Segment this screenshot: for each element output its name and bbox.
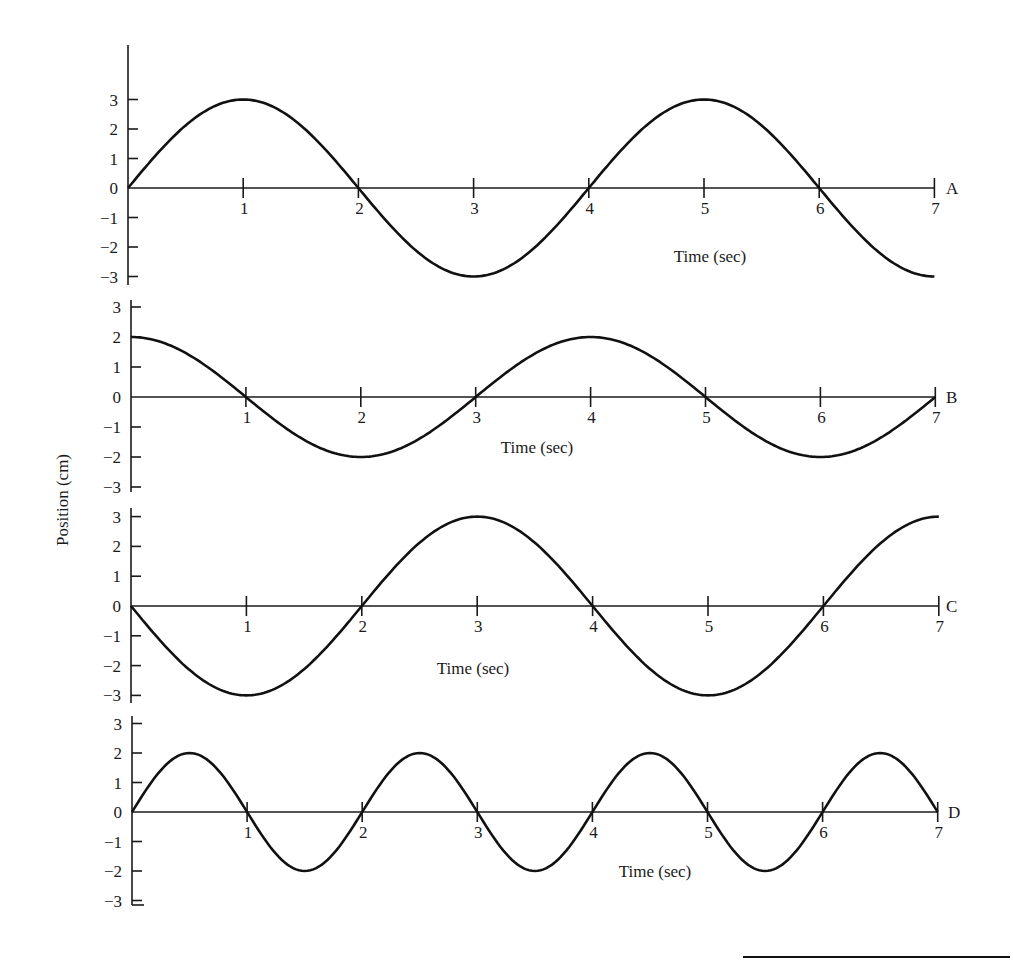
y-tick-label: −1 <box>104 833 122 852</box>
x-tick-label: 7 <box>932 408 941 427</box>
panels-container: 3210−1−2−31234567ATime (sec)3210−1−2−312… <box>100 45 960 911</box>
x-tick-label: 5 <box>704 823 713 842</box>
y-tick-label: −3 <box>103 686 121 705</box>
x-tick-label: 5 <box>702 408 711 427</box>
y-tick-label: −3 <box>103 478 121 497</box>
y-tick-label: 3 <box>113 508 122 527</box>
x-tick-label: 7 <box>931 199 940 218</box>
y-tick-label: −2 <box>103 448 121 467</box>
y-tick-label: 1 <box>113 358 122 377</box>
x-tick-label: 3 <box>474 823 483 842</box>
y-tick-label: 2 <box>113 328 122 347</box>
x-tick-label: 7 <box>936 617 945 636</box>
x-tick-label: 6 <box>820 617 829 636</box>
x-tick-label: 6 <box>816 199 825 218</box>
panel-b: 3210−1−2−31234567BTime (sec) <box>103 298 957 497</box>
x-tick-label: 7 <box>934 823 943 842</box>
panel-a: 3210−1−2−31234567ATime (sec) <box>100 45 959 287</box>
y-tick-label: 2 <box>113 537 122 556</box>
x-tick-label: 1 <box>243 408 252 427</box>
y-tick-label: 0 <box>114 803 123 822</box>
y-tick-label: 3 <box>114 715 123 734</box>
x-axis-label: Time (sec) <box>437 659 510 678</box>
y-tick-label: 1 <box>110 150 119 169</box>
panel-label: A <box>946 179 959 198</box>
x-tick-label: 2 <box>355 199 364 218</box>
y-axis-label: Position (cm) <box>53 454 72 546</box>
x-axis-label: Time (sec) <box>501 438 574 457</box>
x-tick-label: 1 <box>240 199 249 218</box>
x-tick-label: 4 <box>586 199 595 218</box>
x-tick-label: 4 <box>589 823 598 842</box>
y-tick-label: 2 <box>114 744 123 763</box>
panel-c: 3210−1−2−31234567CTime (sec) <box>103 508 957 706</box>
x-tick-label: 3 <box>470 199 479 218</box>
y-tick-label: −2 <box>104 862 122 881</box>
y-tick-label: −1 <box>103 627 121 646</box>
y-tick-label: −2 <box>103 657 121 676</box>
x-tick-label: 5 <box>705 617 714 636</box>
x-tick-label: 3 <box>474 617 483 636</box>
y-tick-label: −3 <box>104 892 122 911</box>
x-tick-label: 2 <box>359 617 368 636</box>
y-tick-label: −2 <box>100 238 118 257</box>
x-tick-label: 5 <box>701 199 710 218</box>
x-axis-label: Time (sec) <box>619 862 692 881</box>
x-tick-label: 1 <box>243 617 252 636</box>
x-tick-label: 4 <box>587 408 596 427</box>
y-tick-label: −1 <box>100 209 118 228</box>
y-tick-label: 0 <box>113 388 122 407</box>
y-tick-label: 1 <box>114 774 123 793</box>
y-tick-label: 3 <box>113 298 122 317</box>
y-tick-label: −1 <box>103 418 121 437</box>
y-tick-label: −3 <box>100 268 118 287</box>
x-axis-label: Time (sec) <box>674 247 747 266</box>
x-tick-label: 2 <box>358 408 367 427</box>
y-tick-label: 0 <box>113 597 122 616</box>
x-tick-label: 2 <box>359 823 368 842</box>
x-tick-label: 3 <box>472 408 481 427</box>
y-tick-label: 3 <box>110 91 119 110</box>
y-tick-label: 1 <box>113 567 122 586</box>
panel-label: D <box>948 803 960 822</box>
panel-d: 3210−1−2−31234567DTime (sec) <box>104 715 960 911</box>
panel-label: C <box>946 597 957 616</box>
panel-label: B <box>946 388 957 407</box>
x-tick-label: 1 <box>244 823 253 842</box>
y-tick-label: 2 <box>110 120 119 139</box>
x-tick-label: 6 <box>817 408 826 427</box>
position-vs-time-figure: Position (cm) 3210−1−2−31234567ATime (se… <box>0 0 1013 960</box>
x-tick-label: 4 <box>589 617 598 636</box>
y-tick-label: 0 <box>110 179 119 198</box>
x-tick-label: 6 <box>819 823 828 842</box>
